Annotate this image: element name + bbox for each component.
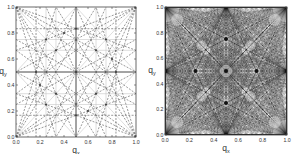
plot-lines [163,5,289,137]
y-tick-label: 0.4 [156,81,163,87]
hollow-region [269,14,281,26]
intersection-node [63,32,65,34]
intersection-node [55,93,57,95]
x-tick-label: 0.2 [36,139,43,145]
hollow-region [269,116,281,128]
dense-node [194,69,198,73]
x-tick-label: 0.6 [84,139,91,145]
y-tick-label: 0.8 [7,30,14,36]
y-tick-label: 0.0 [156,132,163,138]
y-axis-subscript: y [4,71,7,77]
y-tick-label: 0.8 [156,30,163,36]
x-tick-label: 0.4 [210,137,217,143]
x-tick-label: 0.8 [108,139,115,145]
y-tick-label: 0.6 [7,56,14,62]
hollow-region [197,92,207,102]
x-axis-subscript: x [77,150,80,154]
intersection-node [39,84,41,86]
intersection-node [111,58,113,60]
hollow-region [171,14,183,26]
dense-node [224,37,228,41]
plot-lines [16,7,136,137]
x-tick-label: 1.0 [132,139,139,145]
intersection-node [115,71,117,73]
x-tick-label: 1.0 [283,137,290,143]
y-tick-label: 0.4 [7,82,14,88]
right-plot-svg: 0.00.20.40.60.81.00.00.20.40.60.81.0qxqy [146,0,293,154]
y-axis-subscript: y [153,70,156,76]
intersection-node [75,28,77,30]
x-axis-subscript: x [227,148,230,154]
y-tick-label: 1.0 [156,4,163,10]
y-tick-label: 1.0 [7,4,14,10]
x-axis-label: qx [72,145,80,154]
intersection-node [55,49,57,51]
intersection-node [87,110,89,112]
intersection-node [75,71,77,73]
left-chart: 0.00.20.40.60.81.00.00.20.40.60.81.0qxqy [0,0,146,154]
y-tick-label: 0.2 [156,106,163,112]
x-tick-label: 0.8 [259,137,266,143]
intersection-node [75,114,77,116]
intersection-node [105,38,107,40]
intersection-node [35,71,37,73]
right-chart: 0.00.20.40.60.81.00.00.20.40.60.81.0qxqy [146,0,293,154]
dense-node [255,69,259,73]
y-axis-label: qy [148,65,156,76]
y-tick-label: 0.0 [7,134,14,140]
hollow-region [245,40,255,50]
x-axis-label: qx [222,143,230,154]
hollow-region [197,40,207,50]
dense-node [224,69,228,73]
x-tick-label: 0.4 [60,139,67,145]
hollow-region [171,116,183,128]
intersection-node [105,103,107,105]
intersection-node [45,103,47,105]
left-plot-svg: 0.00.20.40.60.81.00.00.20.40.60.81.0qxqy [0,0,146,154]
y-axis-label: qy [0,66,7,77]
intersection-node [45,38,47,40]
y-tick-label: 0.6 [156,55,163,61]
hollow-region [245,92,255,102]
y-tick-label: 0.2 [7,108,14,114]
x-tick-label: 0.6 [235,137,242,143]
intersection-node [95,49,97,51]
x-tick-label: 0.2 [186,137,193,143]
intersection-node [95,93,97,95]
dense-node [224,101,228,105]
